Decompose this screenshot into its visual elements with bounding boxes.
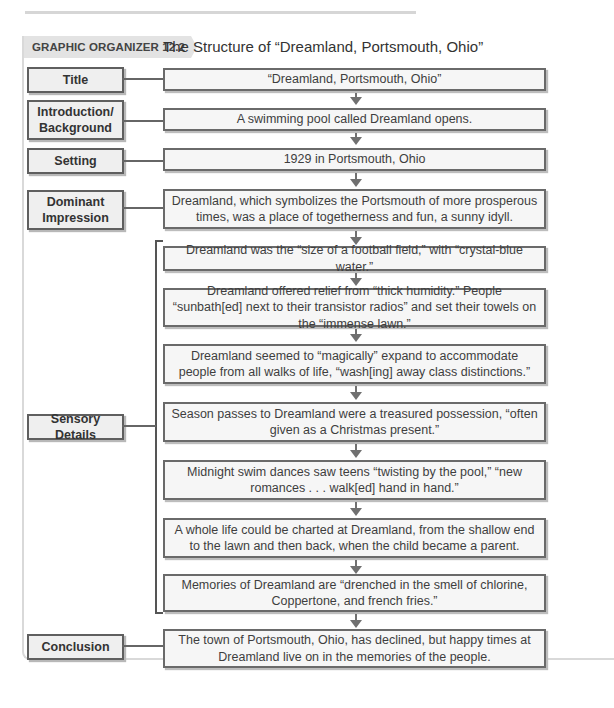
label-title: Title bbox=[27, 67, 124, 93]
sensory-detail: A whole life could be charted at Dreamla… bbox=[163, 518, 546, 558]
connector bbox=[122, 120, 163, 122]
sensory-detail: Dreamland seemed to “magically” expand t… bbox=[163, 344, 546, 384]
sensory-detail: Season passes to Dreamland were a treasu… bbox=[163, 402, 546, 442]
content-conclusion: The town of Portsmouth, Ohio, has declin… bbox=[163, 629, 546, 668]
label-sensory-details: Sensory Details bbox=[27, 414, 124, 440]
bracket-bottom bbox=[155, 612, 163, 614]
label-dominant-impression: Dominant Impression bbox=[27, 190, 124, 230]
connector bbox=[122, 645, 163, 647]
down-arrow-icon bbox=[350, 444, 362, 458]
connector bbox=[122, 207, 163, 209]
down-arrow-icon bbox=[350, 93, 362, 105]
label-setting: Setting bbox=[27, 148, 124, 174]
top-rule bbox=[25, 11, 416, 14]
content-dominant-impression: Dreamland, which symbolizes the Portsmou… bbox=[163, 189, 546, 229]
sensory-detail: Memories of Dreamland are “drenched in t… bbox=[163, 574, 546, 612]
down-arrow-icon bbox=[350, 614, 362, 628]
label-conclusion: Conclusion bbox=[27, 634, 124, 660]
down-arrow-icon bbox=[350, 502, 362, 516]
content-introduction: A swimming pool called Dreamland opens. bbox=[163, 108, 546, 131]
bracket-spine bbox=[155, 240, 157, 614]
content-setting: 1929 in Portsmouth, Ohio bbox=[163, 148, 546, 171]
connector bbox=[122, 78, 163, 80]
connector bbox=[122, 160, 163, 162]
label-introduction: Introduction/ Background bbox=[27, 100, 124, 140]
connector bbox=[122, 425, 156, 427]
content-title: “Dreamland, Portsmouth, Ohio” bbox=[163, 68, 546, 91]
down-arrow-icon bbox=[350, 173, 362, 187]
organizer-title: The Structure of “Dreamland, Portsmouth,… bbox=[163, 36, 483, 58]
sensory-detail: Dreamland offered relief from “thick hum… bbox=[163, 288, 546, 327]
down-arrow-icon bbox=[350, 560, 362, 574]
down-arrow-icon bbox=[350, 133, 362, 145]
sensory-detail: Dreamland was the “size of a football fi… bbox=[163, 246, 546, 271]
down-arrow-icon bbox=[350, 329, 362, 342]
down-arrow-icon bbox=[350, 386, 362, 400]
sensory-detail: Midnight swim dances saw teens “twisting… bbox=[163, 460, 546, 500]
